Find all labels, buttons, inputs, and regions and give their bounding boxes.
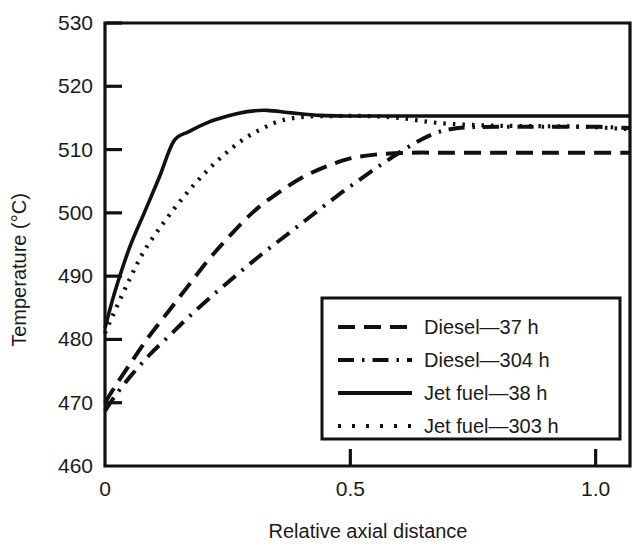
y-tick-label-520: 520	[58, 74, 93, 97]
y-tick-label-480: 480	[58, 327, 93, 350]
x-axis-title: Relative axial distance	[269, 520, 468, 542]
legend-label-3: Jet fuel—303 h	[424, 415, 559, 437]
y-tick-label-470: 470	[58, 391, 93, 414]
chart-legend: Diesel—37 hDiesel—304 hJet fuel—38 hJet …	[322, 298, 620, 439]
y-axis-title: Temperature (°C)	[8, 193, 30, 347]
x-tick-label-1.0: 1.0	[581, 477, 610, 500]
y-tick-label-490: 490	[58, 264, 93, 287]
x-tick-label-0.5: 0.5	[336, 477, 365, 500]
y-tick-label-510: 510	[58, 138, 93, 161]
legend-label-0: Diesel—37 h	[424, 316, 539, 338]
chart-figure: 460470480490500510520530 00.51.0 Relativ…	[0, 0, 640, 547]
legend-label-2: Jet fuel—38 h	[424, 382, 547, 404]
temperature-vs-axial-distance-chart: 460470480490500510520530 00.51.0 Relativ…	[0, 0, 640, 547]
x-tick-label-0: 0	[99, 477, 111, 500]
y-tick-label-460: 460	[58, 454, 93, 477]
legend-label-1: Diesel—304 h	[424, 349, 550, 371]
y-tick-label-530: 530	[58, 11, 93, 34]
y-tick-label-500: 500	[58, 201, 93, 224]
